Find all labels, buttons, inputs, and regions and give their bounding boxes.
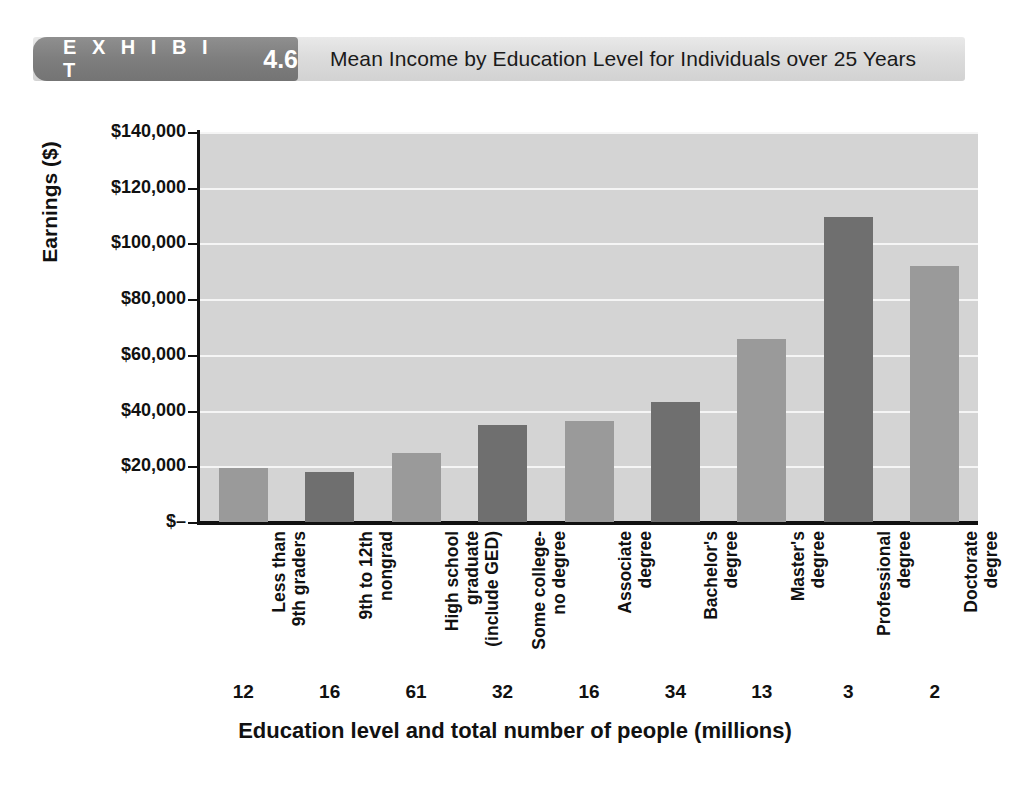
population-number: 2 bbox=[929, 681, 940, 703]
bar[interactable] bbox=[824, 217, 873, 522]
x-axis-title: Education level and total number of peop… bbox=[0, 718, 1030, 744]
y-axis-tick-label: $120,000 bbox=[60, 177, 186, 198]
x-axis-category-label: Some college- no degree bbox=[529, 531, 569, 681]
x-axis-category-label: 9th to 12th nongrad bbox=[356, 531, 396, 681]
x-axis-category-label: Professional degree bbox=[874, 531, 914, 681]
bar[interactable] bbox=[651, 402, 700, 522]
population-number: 61 bbox=[406, 681, 427, 703]
y-axis-tick-label: $20,000 bbox=[60, 455, 186, 476]
x-axis-category-label: Bachelor's degree bbox=[701, 531, 741, 681]
population-number: 34 bbox=[665, 681, 686, 703]
population-number: 32 bbox=[492, 681, 513, 703]
x-axis-category-label: Doctorate degree bbox=[961, 531, 1001, 681]
y-axis-tick bbox=[188, 411, 198, 413]
population-number: 3 bbox=[843, 681, 854, 703]
x-axis-category-label: High school graduate (include GED) bbox=[442, 531, 502, 681]
population-number: 16 bbox=[319, 681, 340, 703]
y-axis-tick-label: $140,000 bbox=[60, 121, 186, 142]
x-axis-category-label: Associate degree bbox=[615, 531, 655, 681]
x-axis-category-label: Master's degree bbox=[788, 531, 828, 681]
y-axis-tick bbox=[188, 299, 198, 301]
population-number: 12 bbox=[233, 681, 254, 703]
y-axis-tick-labels: $–$20,000$40,000$60,000$80,000$100,000$1… bbox=[46, 0, 186, 796]
bar[interactable] bbox=[305, 472, 354, 522]
y-axis-tick bbox=[188, 355, 198, 357]
y-axis-tick-label: $40,000 bbox=[60, 400, 186, 421]
y-axis-tick bbox=[188, 243, 198, 245]
y-axis-tick bbox=[188, 188, 198, 190]
bar-chart: Earnings ($) $–$20,000$40,000$60,000$80,… bbox=[0, 0, 1030, 796]
y-axis-tick-label: $– bbox=[60, 511, 186, 532]
y-axis-tick-label: $60,000 bbox=[60, 344, 186, 365]
bar[interactable] bbox=[910, 266, 959, 522]
bar[interactable] bbox=[737, 339, 786, 522]
bar[interactable] bbox=[219, 468, 268, 522]
bar[interactable] bbox=[478, 425, 527, 522]
population-number: 13 bbox=[751, 681, 772, 703]
y-axis-tick-label: $100,000 bbox=[60, 232, 186, 253]
y-axis-tick bbox=[188, 132, 198, 134]
y-axis-tick bbox=[188, 466, 198, 468]
y-axis-tick bbox=[188, 522, 198, 524]
bar[interactable] bbox=[565, 421, 614, 522]
x-axis-category-label: Less than 9th graders bbox=[269, 531, 309, 681]
population-number: 16 bbox=[578, 681, 599, 703]
y-axis-tick-label: $80,000 bbox=[60, 288, 186, 309]
bar[interactable] bbox=[392, 453, 441, 522]
gridline bbox=[200, 132, 978, 134]
gridline bbox=[200, 188, 978, 190]
